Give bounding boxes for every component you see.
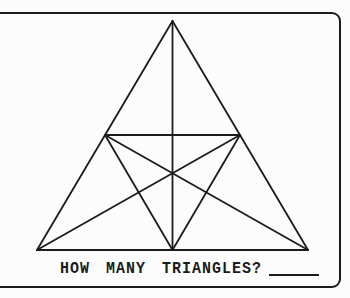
question-row: HOW MANY TRIANGLES? xyxy=(60,262,319,277)
answer-blank xyxy=(269,274,319,276)
question-label: HOW MANY TRIANGLES? xyxy=(60,261,262,277)
segment-right_mid-bottom_left xyxy=(37,135,240,250)
triangle-puzzle-figure xyxy=(0,0,350,298)
puzzle-page: HOW MANY TRIANGLES? xyxy=(0,0,350,298)
segment-left_mid-bottom_right xyxy=(105,135,308,250)
